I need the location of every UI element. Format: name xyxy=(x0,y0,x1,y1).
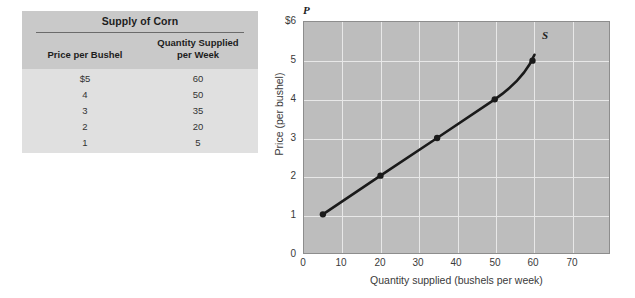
table-column-header-quantity-line1: Quantity Supplied xyxy=(142,37,254,49)
table-column-header-price: Price per Bushel xyxy=(26,49,144,61)
supply-curve-label: S xyxy=(542,29,548,41)
table-cell-quantity: 20 xyxy=(142,121,254,132)
table-cell-price: 4 xyxy=(26,89,144,100)
x-tick-label: 50 xyxy=(480,257,510,268)
x-tick-label: 10 xyxy=(326,257,356,268)
table-cell-quantity: 5 xyxy=(142,137,254,148)
table-column-header-quantity: Quantity Supplied per Week xyxy=(142,37,254,60)
data-point-marker xyxy=(434,135,440,141)
y-tick-label: 3 xyxy=(258,132,296,143)
data-point-marker xyxy=(492,96,498,102)
table-column-header-quantity-line2: per Week xyxy=(142,49,254,61)
y-axis-symbol: P xyxy=(303,4,310,16)
y-tick-label: 5 xyxy=(258,54,296,65)
table-row: 3 35 xyxy=(22,105,258,121)
x-tick-label: 20 xyxy=(365,257,395,268)
x-tick-label: 60 xyxy=(518,257,548,268)
table-cell-price: 1 xyxy=(26,137,144,148)
table-row: $5 60 xyxy=(22,73,258,89)
y-tick-label: 1 xyxy=(258,209,296,220)
x-tick-label: 40 xyxy=(441,257,471,268)
plot-area xyxy=(303,21,610,254)
x-axis-title: Quantity supplied (bushels per week) xyxy=(303,274,610,286)
table-row: 4 50 xyxy=(22,89,258,105)
table-row: 1 5 xyxy=(22,137,258,153)
table-cell-quantity: 60 xyxy=(142,73,254,84)
table-title: Supply of Corn xyxy=(22,15,258,27)
data-point-marker xyxy=(529,57,535,63)
supply-of-corn-table: Supply of Corn Price per Bushel Quantity… xyxy=(22,11,258,153)
table-cell-price: 3 xyxy=(26,105,144,116)
y-tick-label: $6 xyxy=(258,15,296,26)
data-point-marker xyxy=(320,211,326,217)
table-cell-quantity: 35 xyxy=(142,105,254,116)
table-row: 2 20 xyxy=(22,121,258,137)
x-tick-label: 30 xyxy=(403,257,433,268)
supply-curve-svg xyxy=(304,22,609,253)
data-point-marker xyxy=(377,172,383,178)
x-tick-label: 70 xyxy=(557,257,587,268)
supply-curve-path xyxy=(323,55,535,215)
table-cell-price: 2 xyxy=(26,121,144,132)
table-title-divider xyxy=(36,32,244,33)
table-cell-quantity: 50 xyxy=(142,89,254,100)
table-cell-price: $5 xyxy=(26,73,144,84)
y-tick-label: 2 xyxy=(258,170,296,181)
supply-curve-chart: P Q Price (per bushel) Quantity supplied… xyxy=(258,0,635,298)
y-tick-label: 4 xyxy=(258,93,296,104)
x-tick-label: 0 xyxy=(288,257,318,268)
